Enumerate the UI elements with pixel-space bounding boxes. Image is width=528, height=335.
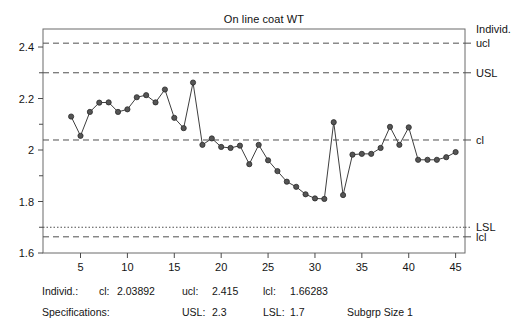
svg-text:35: 35 — [356, 261, 368, 273]
footer-specs-label: Specifications: — [42, 306, 110, 318]
footer-row-specifications: Specifications: USL: 2.3 LSL: 1.7 Subgrp… — [0, 306, 528, 327]
footer-lsl-key: LSL: — [263, 306, 285, 318]
footer-usl-key: USL: — [182, 306, 205, 318]
footer-individ-label: Individ.: — [42, 285, 78, 297]
svg-text:45: 45 — [449, 261, 461, 273]
footer-row-individ: Individ.: cl: 2.03892 ucl: 2.415 lcl: 1.… — [0, 285, 528, 306]
svg-text:ucl: ucl — [476, 37, 490, 49]
reference-lines — [43, 43, 471, 237]
svg-text:2.4: 2.4 — [19, 41, 34, 53]
footer-lcl-key: lcl: — [263, 285, 276, 297]
series-line-individ — [71, 83, 455, 199]
svg-text:15: 15 — [168, 261, 180, 273]
svg-text:2: 2 — [28, 144, 34, 156]
svg-text:20: 20 — [215, 261, 227, 273]
svg-text:2.2: 2.2 — [19, 93, 34, 105]
footer-lsl-value: 1.7 — [290, 306, 305, 318]
footer-subgroup-size: Subgrp Size 1 — [347, 306, 413, 318]
svg-text:Individ.: Individ. — [476, 23, 511, 35]
svg-text:USL: USL — [476, 67, 497, 79]
control-chart: On line coat WT 1.61.822.22.4 5101520253… — [0, 0, 528, 335]
right-side-labels: uclUSLclLSLlclIndivid. — [476, 23, 511, 243]
svg-text:5: 5 — [77, 261, 83, 273]
footer-ucl-value: 2.415 — [212, 285, 238, 297]
svg-text:1.6: 1.6 — [19, 247, 34, 259]
footer-cl-value: 2.03892 — [117, 285, 155, 297]
footer-cl-key: cl: — [99, 285, 110, 297]
svg-text:25: 25 — [262, 261, 274, 273]
footer-usl-value: 2.3 — [212, 306, 227, 318]
x-axis-ticks: 51015202530354045 — [77, 253, 461, 273]
chart-footer: Individ.: cl: 2.03892 ucl: 2.415 lcl: 1.… — [0, 285, 528, 327]
svg-text:30: 30 — [309, 261, 321, 273]
chart-plot-area: 1.61.822.22.4 51015202530354045 uclUSLcl… — [0, 0, 528, 285]
y-axis-ticks: 1.61.822.22.4 — [19, 41, 43, 259]
svg-text:lcl: lcl — [476, 231, 486, 243]
svg-text:1.8: 1.8 — [19, 196, 34, 208]
svg-text:cl: cl — [476, 134, 484, 146]
svg-text:10: 10 — [121, 261, 133, 273]
series-points-individ — [69, 80, 459, 202]
svg-text:40: 40 — [403, 261, 415, 273]
footer-ucl-key: ucl: — [182, 285, 198, 297]
footer-lcl-value: 1.66283 — [290, 285, 328, 297]
